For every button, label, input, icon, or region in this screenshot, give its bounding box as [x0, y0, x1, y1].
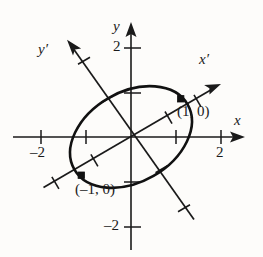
- x-tick-label-plus2: 2: [216, 145, 224, 160]
- point-label-left: (–1, 0): [75, 182, 115, 197]
- y-prime-axis-arrowhead: [67, 40, 81, 56]
- x-prime-axis-label: x′: [199, 52, 209, 67]
- point-marker-left: [78, 172, 84, 178]
- figure-canvas: [0, 0, 263, 257]
- y-axis-label: y: [113, 19, 120, 34]
- point-label-right: (1, 0): [177, 104, 210, 119]
- y-prime-axis-label: y′: [38, 42, 48, 57]
- point-marker-right: [178, 96, 184, 102]
- x-axis-label: x: [234, 113, 241, 128]
- rotated-conic-figure: x y x′ y′ –2 2 2 –2 (1, 0) (–1, 0): [0, 0, 263, 257]
- y-tick-label-plus2: 2: [113, 39, 121, 54]
- y-tick-label-minus2: –2: [104, 218, 119, 233]
- x-tick-label-minus2: –2: [30, 145, 45, 160]
